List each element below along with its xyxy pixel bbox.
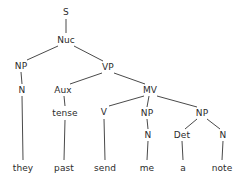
tree-edge-nuc-to-vp [74, 46, 103, 61]
tree-node-np2: NP [141, 108, 154, 118]
tree-edge-mv-to-np2 [147, 96, 149, 107]
tree-node-n1: N [19, 85, 26, 95]
tree-node-s: S [63, 7, 69, 17]
tree-node-np3: NP [196, 108, 209, 118]
tree-leaf-w-past: past [54, 163, 74, 173]
tree-node-tense: tense [52, 108, 78, 118]
tree-leaf-w-send: send [94, 163, 116, 173]
tree-leaf-w-note: note [212, 163, 233, 173]
tree-leaf-group: theypastsendmeanote [13, 163, 233, 173]
tree-node-det: Det [174, 130, 191, 140]
tree-node-mv: MV [143, 85, 158, 95]
tree-edge-tense-to-w-past [64, 120, 65, 160]
tree-leaf-w-me: me [140, 163, 155, 173]
tree-edge-np3-to-n3 [207, 119, 220, 129]
tree-edge-n1-to-w-they [22, 96, 23, 160]
tree-node-aux: Aux [54, 85, 72, 95]
tree-node-v: V [101, 107, 108, 117]
tree-edge-group [21, 19, 223, 160]
syntax-tree-canvas: SNucNPVPNAuxMVtenseVNPNPNDetN theypastse… [0, 0, 245, 182]
tree-edge-np2-to-n2 [147, 119, 148, 129]
tree-edge-mv-to-v [109, 96, 144, 106]
tree-edge-mv-to-np3 [157, 96, 197, 107]
tree-edge-n3-to-w-note [222, 141, 223, 160]
tree-edge-np1-to-n1 [21, 72, 22, 84]
tree-edge-vp-to-aux [70, 73, 102, 84]
syntax-tree-figure: SNucNPVPNAuxMVtenseVNPNPNDetN theypastse… [0, 0, 245, 182]
tree-edge-nuc-to-np1 [27, 46, 58, 60]
tree-leaf-w-a: a [180, 163, 186, 173]
tree-node-np1: NP [15, 61, 28, 71]
tree-node-group: SNucNPVPNAuxMVtenseVNPNPNDetN [15, 7, 227, 140]
tree-node-n3: N [220, 130, 227, 140]
tree-edge-np3-to-det [185, 119, 197, 129]
tree-edge-vp-to-mv [114, 73, 145, 84]
tree-edge-v-to-w-send [104, 119, 105, 160]
tree-edge-det-to-w-a [182, 141, 183, 160]
tree-edge-aux-to-tense [64, 96, 65, 106]
tree-leaf-w-they: they [13, 163, 34, 173]
tree-node-vp: VP [102, 62, 114, 72]
tree-edge-n2-to-w-me [147, 141, 148, 160]
tree-node-nuc: Nuc [57, 35, 75, 45]
tree-node-n2: N [145, 130, 152, 140]
